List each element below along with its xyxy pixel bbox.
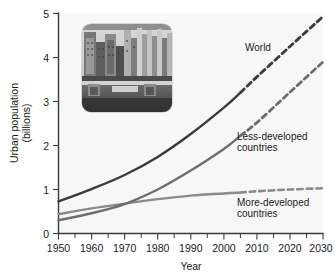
y-tick-label-2: 2 <box>43 140 49 152</box>
y-tick-label-3: 3 <box>43 96 49 108</box>
x-axis-title: Year <box>180 260 202 272</box>
x-tick-label-1970: 1970 <box>113 242 137 254</box>
x-tick-label-1980: 1980 <box>146 242 170 254</box>
x-axis: 1950 1960 1970 1980 1990 2000 2010 2020 … <box>47 234 333 255</box>
chart-figure: 5 4 3 2 1 0 Urban population (billions) <box>0 0 335 276</box>
y-tick-label-4: 4 <box>43 52 49 64</box>
y-axis: 5 4 3 2 1 0 <box>43 8 58 240</box>
city-skyline-photo <box>82 24 172 112</box>
y-axis-title: Urban population (billions) <box>8 83 32 163</box>
x-tick-label-1990: 1990 <box>179 242 203 254</box>
series-label-less-developed-line2: countries <box>237 142 278 153</box>
x-tick-label-2020: 2020 <box>278 242 302 254</box>
city-skyline-illustration <box>82 24 172 112</box>
series-label-more-developed-line1: More-developed <box>237 197 309 208</box>
x-tick-label-2030: 2030 <box>309 242 333 254</box>
y-tick-label-5: 5 <box>43 8 49 20</box>
x-tick-label-1960: 1960 <box>80 242 104 254</box>
y-tick-label-0: 0 <box>43 228 49 240</box>
y-axis-title-line2: (billions) <box>20 103 32 142</box>
x-tick-label-2000: 2000 <box>212 242 236 254</box>
x-tick-label-1950: 1950 <box>47 242 71 254</box>
series-label-less-developed-line1: Less-developed <box>237 131 308 142</box>
x-tick-label-2010: 2010 <box>245 242 269 254</box>
series-label-more-developed-line2: countries <box>237 208 278 219</box>
y-tick-label-1: 1 <box>43 184 49 196</box>
series-label-world: World <box>245 42 271 53</box>
y-axis-title-line1: Urban population <box>8 83 20 163</box>
